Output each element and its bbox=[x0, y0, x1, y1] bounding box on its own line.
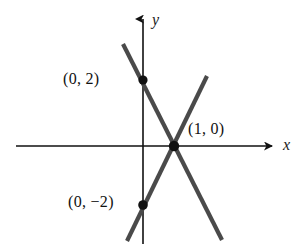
y-axis-label: y bbox=[152, 12, 159, 28]
point-0-neg2 bbox=[138, 200, 148, 210]
line-ascending bbox=[127, 76, 207, 241]
point-1-0 bbox=[169, 141, 179, 151]
point-label-0-2: (0, 2) bbox=[63, 71, 99, 87]
coordinate-plane-figure: y x (0, 2) (1, 0) (0, −2) bbox=[0, 0, 306, 246]
x-axis-label: x bbox=[283, 137, 290, 153]
graph-canvas bbox=[0, 0, 306, 246]
point-label-0-neg2: (0, −2) bbox=[68, 194, 114, 210]
point-0-2 bbox=[138, 75, 147, 84]
point-label-1-0: (1, 0) bbox=[188, 121, 224, 137]
